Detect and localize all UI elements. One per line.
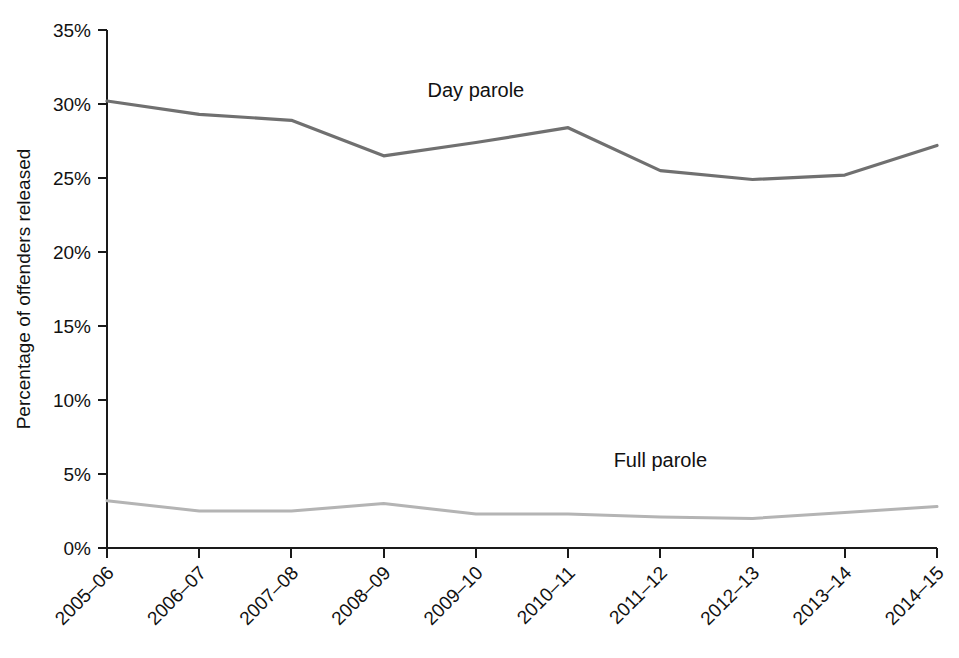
series-line-full-parole — [107, 501, 937, 519]
series-annotation-day-parole: Day parole — [428, 79, 525, 101]
y-axis-title: Percentage of offenders released — [13, 149, 34, 430]
y-tick-label: 10% — [53, 390, 91, 411]
series-annotation-full-parole: Full parole — [614, 449, 707, 471]
series-line-day-parole — [107, 101, 937, 179]
y-tick-label: 5% — [64, 464, 92, 485]
x-tick-label: 2010–11 — [513, 562, 579, 628]
y-axis-title-group: Percentage of offenders released — [13, 149, 34, 430]
y-tick-label: 30% — [53, 94, 91, 115]
x-axis-ticks: 2005–062006–072007–082008–092009–102010–… — [51, 548, 948, 629]
x-tick-label: 2007–08 — [235, 562, 302, 629]
series-lines — [107, 101, 937, 518]
x-tick-label: 2006–07 — [143, 562, 210, 629]
axis-spine — [107, 30, 937, 548]
x-tick-label: 2012–13 — [696, 562, 763, 629]
x-tick-label: 2008–09 — [327, 562, 394, 629]
x-tick-label: 2014–15 — [881, 562, 948, 629]
y-tick-label: 25% — [53, 168, 91, 189]
x-tick-label: 2005–06 — [51, 562, 118, 629]
series-annotations: Day paroleFull parole — [428, 79, 707, 471]
y-tick-label: 35% — [53, 20, 91, 41]
y-axis-ticks: 0%5%10%15%20%25%30%35% — [53, 20, 107, 559]
x-tick-label: 2009–10 — [420, 562, 487, 629]
y-tick-label: 20% — [53, 242, 91, 263]
x-tick-label: 2013–14 — [788, 562, 855, 629]
y-tick-label: 15% — [53, 316, 91, 337]
y-tick-label: 0% — [64, 538, 92, 559]
line-chart: Percentage of offenders released 0%5%10%… — [0, 0, 959, 658]
chart-container: Percentage of offenders released 0%5%10%… — [0, 0, 959, 658]
x-tick-label: 2011–12 — [605, 562, 671, 628]
